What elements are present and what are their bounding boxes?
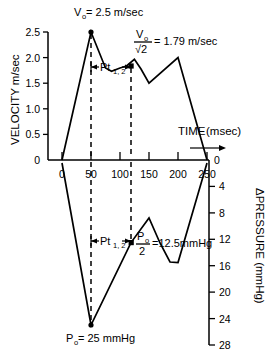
time-direction-arrowhead: [219, 145, 226, 151]
pressure-origin-label: 0: [214, 154, 220, 166]
v-peak-symbol: V: [74, 6, 82, 18]
pt-upper-subscript: 1, 2: [113, 67, 126, 76]
pressure-ticklabel-8: 8: [219, 207, 225, 219]
pressure-ticklabel-12: 12: [219, 233, 231, 245]
figure-svg: 2.5 2.0 1.5 1.0 0.5 0 VELOCITY m/sec V o…: [0, 0, 275, 353]
velocity-peak-marker: [88, 29, 93, 34]
p-peak-symbol: P: [66, 332, 73, 344]
pressure-ticklabel-16: 16: [219, 260, 231, 272]
v-half-denominator: √2: [135, 43, 147, 55]
pulse-time-lower-annotation: Pt 1, 2: [91, 235, 131, 250]
p-half-text: =12.5mmHg: [152, 237, 212, 249]
pt-upper-symbol: Pt: [100, 61, 110, 73]
pt-upper-left-arrowhead: [91, 65, 97, 70]
v-peak-annotation: V o = 2.5 m/sec: [74, 6, 144, 21]
p-peak-text: = 25 mmHg: [78, 332, 135, 344]
figure-root: 2.5 2.0 1.5 1.0 0.5 0 VELOCITY m/sec V o…: [0, 0, 275, 353]
pressure-ticklabel-4: 4: [219, 180, 225, 192]
velocity-ticklabel-0.5: 0.5: [25, 128, 40, 140]
p-half-numerator: P: [137, 230, 144, 242]
pressure-ticklabel-28: 28: [219, 339, 231, 351]
pt-lower-subscript: 1, 2: [113, 241, 126, 250]
pressure-axis-label: ΔPRESSURE (mmHg): [254, 188, 266, 304]
pt-lower-left-arrowhead: [91, 239, 97, 244]
velocity-ticklabel-2.5: 2.5: [25, 26, 40, 38]
p-peak-annotation: P o = 25 mmHg: [66, 332, 135, 347]
time-ticklabel-250: 250: [198, 168, 216, 180]
time-ticklabel-100: 100: [111, 168, 129, 180]
pressure-ticklabel-20: 20: [219, 286, 231, 298]
pressure-ticklabel-24: 24: [219, 313, 231, 325]
pt-lower-symbol: Pt: [100, 235, 110, 247]
v-half-text: = 1.79 m/sec: [154, 35, 218, 47]
p-half-annotation: P o 2 =12.5mmHg: [136, 230, 212, 257]
velocity-ticklabel-1.0: 1.0: [25, 103, 40, 115]
velocity-ticklabel-1.5: 1.5: [25, 77, 40, 89]
v-peak-text: = 2.5 m/sec: [86, 6, 144, 18]
velocity-axis-label: VELOCITY m/sec: [9, 54, 21, 145]
velocity-ticklabel-2.0: 2.0: [25, 52, 40, 64]
v-half-numerator: V: [136, 28, 144, 40]
velocity-ticklabel-0: 0: [34, 154, 40, 166]
pulse-time-upper-annotation: Pt 1, 2: [91, 61, 131, 76]
v-half-power-annotation: V o √2 = 1.79 m/sec: [134, 28, 218, 55]
time-ticklabel-200: 200: [169, 168, 187, 180]
time-axis-label-group: TIME (msec): [178, 125, 241, 151]
time-axis-unit: (msec): [206, 125, 241, 137]
time-axis-label: TIME: [178, 125, 206, 137]
pressure-trough-marker: [88, 322, 93, 327]
p-half-denominator: 2: [139, 245, 145, 257]
time-ticklabel-150: 150: [140, 168, 158, 180]
velocity-half-power-marker: [129, 63, 134, 68]
